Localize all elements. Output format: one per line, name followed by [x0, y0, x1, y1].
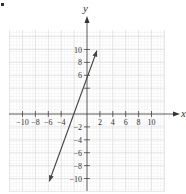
y-tick-label: −8 [73, 162, 82, 171]
x-tick-label: −8 [31, 118, 40, 127]
graph: x y −10−8−6−42468101086−2−4−6−8−10 [0, 0, 186, 194]
y-tick-label: −2 [73, 123, 82, 132]
y-axis-arrow-icon [85, 16, 90, 23]
y-tick-label: 10 [74, 46, 82, 55]
y-axis-label: y [82, 2, 88, 14]
x-tick-label: 6 [124, 118, 128, 127]
x-tick-label: 2 [98, 118, 102, 127]
x-axis-arrow-icon [173, 112, 180, 117]
x-tick-label: −4 [57, 118, 66, 127]
y-tick-label: −4 [73, 136, 82, 145]
y-tick-label: 6 [78, 71, 82, 80]
x-tick-label: 8 [137, 118, 141, 127]
y-tick-label: 8 [78, 58, 82, 67]
y-tick-label: −6 [73, 149, 82, 158]
y-tick-label: −10 [69, 175, 82, 184]
x-tick-label: −10 [16, 118, 29, 127]
x-tick-label: 10 [148, 118, 156, 127]
x-tick-label: 4 [111, 118, 115, 127]
x-axis-label: x [180, 107, 186, 119]
x-tick-label: −6 [44, 118, 53, 127]
